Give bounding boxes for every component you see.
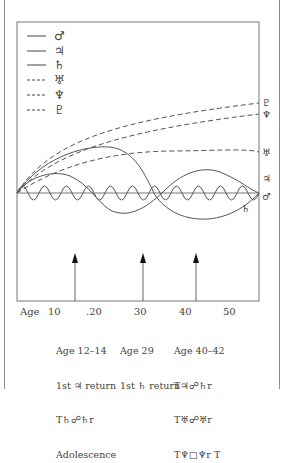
marker-arrow-3: [193, 253, 199, 301]
x-tick-40: 40: [179, 306, 192, 317]
x-tick-20: .20: [86, 306, 102, 317]
annotation-line: 1st ♃ return: [56, 380, 116, 392]
marker-arrow-2: [140, 253, 146, 301]
annotation-line: 1st ♄ return: [120, 380, 180, 392]
x-tick-10: 10: [48, 306, 61, 317]
pluto-end-label: ♇: [262, 97, 271, 108]
annotation-line: Adolescence: [56, 449, 116, 461]
jupiter-symbol-icon: ♃: [54, 44, 65, 58]
annotation-line: Age 29: [120, 345, 180, 357]
uranus-symbol-icon: ♅: [54, 73, 65, 87]
annotation-line: Age 40–42: [174, 345, 225, 357]
annotation-line: T♃☍♄r: [174, 380, 225, 392]
saturn-symbol-icon: ♄: [54, 58, 65, 72]
pluto-symbol-icon: ♇: [54, 103, 65, 117]
x-axis-label: Age: [20, 306, 40, 317]
mars-end-label: ♂: [262, 191, 271, 202]
saturn-end-label: ♄: [241, 203, 250, 214]
annotation-age-29: Age 29 1st ♄ return: [120, 322, 180, 403]
annotation-line: Age 12–14: [56, 345, 116, 357]
neptune-symbol-icon: ♆: [54, 88, 65, 102]
jupiter-end-label: ♃: [262, 173, 271, 184]
annotation-line: T♆□♆r T: [174, 449, 225, 461]
legend: ♂ ♃ ♄ ♅ ♆ ♇: [27, 29, 65, 117]
annotation-line: T♅☍♅r: [174, 414, 225, 426]
x-tick-30: 30: [134, 306, 147, 317]
x-tick-50: 50: [223, 306, 236, 317]
neptune-end-label: ♆: [262, 109, 271, 120]
annotation-age-40-42: Age 40–42 T♃☍♄r T♅☍♅r T♆□♆r T: [174, 322, 225, 463]
neptune-curve: [17, 114, 259, 193]
marker-arrow-1: [72, 253, 78, 301]
annotation-age-12-14: Age 12–14 1st ♃ return T♄☍♄r Adolescence: [56, 322, 116, 463]
annotation-line: T♄☍♄r: [56, 414, 116, 426]
jupiter-curve: [17, 170, 259, 214]
mars-symbol-icon: ♂: [54, 29, 65, 43]
saturn-curve: [17, 147, 259, 219]
uranus-end-label: ♅: [262, 147, 271, 158]
